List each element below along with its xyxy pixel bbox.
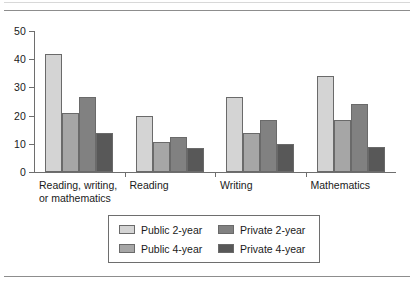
figure-top-rule — [4, 10, 410, 11]
x-axis-category-label: Writing — [220, 179, 252, 192]
y-axis-tick-label: 20 — [14, 110, 26, 122]
x-axis-category-label: Mathematics — [311, 179, 371, 192]
bar — [62, 113, 79, 172]
y-axis-line — [34, 31, 35, 172]
bar — [334, 120, 351, 172]
bar-group — [45, 31, 113, 172]
legend-swatch — [218, 225, 234, 234]
bar — [368, 147, 385, 172]
legend-item: Public 4-year — [119, 243, 212, 255]
y-axis-tick — [29, 116, 34, 117]
bar — [45, 54, 62, 172]
legend-item: Private 2-year — [218, 224, 311, 236]
x-axis-tick — [215, 172, 216, 177]
header-divider-faint — [4, 2, 410, 3]
bar — [136, 116, 153, 172]
bar — [170, 137, 187, 172]
bar-chart-plot-area: 01020304050 Reading, writing, or mathema… — [34, 31, 396, 172]
legend-label: Public 4-year — [141, 243, 202, 255]
x-axis-tick — [306, 172, 307, 177]
bar-group — [317, 31, 385, 172]
legend-item: Private 4-year — [218, 243, 311, 255]
chart-legend: Public 2-yearPrivate 2-yearPublic 4-year… — [108, 215, 320, 263]
bar-group — [136, 31, 204, 172]
legend-label: Private 4-year — [240, 243, 305, 255]
x-axis-category-label: Reading — [130, 179, 169, 192]
y-axis-tick — [29, 31, 34, 32]
bar — [317, 76, 334, 172]
bar — [260, 120, 277, 172]
bar — [96, 133, 113, 172]
legend-swatch — [119, 225, 135, 234]
bar — [153, 142, 170, 172]
bar — [277, 144, 294, 172]
figure-container: 01020304050 Reading, writing, or mathema… — [0, 0, 414, 286]
x-axis-tick — [125, 172, 126, 177]
bar — [226, 97, 243, 172]
y-axis-tick-label: 40 — [14, 53, 26, 65]
y-axis-tick-label: 30 — [14, 81, 26, 93]
bar — [351, 104, 368, 172]
y-axis-tick — [29, 172, 34, 173]
y-axis-tick — [29, 59, 34, 60]
y-axis-tick-label: 10 — [14, 138, 26, 150]
y-axis-tick — [29, 87, 34, 88]
legend-swatch — [119, 244, 135, 253]
y-axis-tick-label: 0 — [20, 166, 26, 178]
legend-label: Public 2-year — [141, 224, 202, 236]
legend-swatch — [218, 244, 234, 253]
bar — [243, 133, 260, 172]
y-axis-tick — [29, 144, 34, 145]
legend-label: Private 2-year — [240, 224, 305, 236]
bar-group — [226, 31, 294, 172]
x-axis-category-label: Reading, writing, or mathematics — [39, 179, 117, 204]
y-axis-tick-label: 50 — [14, 25, 26, 37]
legend-item: Public 2-year — [119, 224, 212, 236]
bar — [79, 97, 96, 172]
figure-bottom-rule — [4, 276, 410, 277]
bar — [187, 148, 204, 172]
